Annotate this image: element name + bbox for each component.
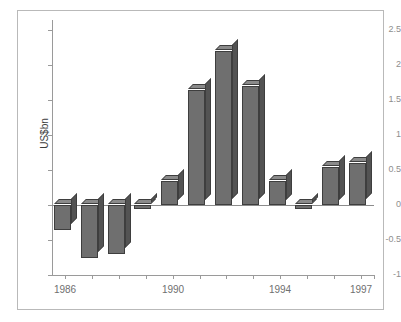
bar-side-face <box>259 74 265 199</box>
bar <box>188 84 205 200</box>
bar-front-face <box>349 163 366 205</box>
bar-front-face <box>134 205 151 209</box>
bar-side-face <box>232 39 238 199</box>
bar-front-face <box>295 205 312 209</box>
bar-front-face <box>161 181 178 206</box>
bar-front-face <box>81 205 98 258</box>
bar-side-face <box>98 193 104 252</box>
bar <box>215 45 232 199</box>
bar-side-face <box>71 193 77 224</box>
bar <box>161 175 178 200</box>
bar-side-face <box>366 151 372 199</box>
bar <box>134 199 151 203</box>
bar-side-face <box>205 78 211 200</box>
bar <box>322 161 339 200</box>
bar <box>295 199 312 203</box>
bar-front-face <box>188 90 205 206</box>
bar-side-face <box>312 193 318 203</box>
bar-front-face <box>54 205 71 230</box>
bar <box>349 157 366 199</box>
bar <box>81 199 98 252</box>
bar <box>108 199 125 248</box>
bar-side-face <box>178 169 184 200</box>
bar-side-face <box>339 155 345 200</box>
bar-front-face <box>322 167 339 206</box>
bar-front-face <box>108 205 125 254</box>
bar <box>269 175 286 200</box>
bar <box>242 80 259 199</box>
bar <box>54 199 71 224</box>
bar-front-face <box>269 181 286 206</box>
bar-front-face <box>215 51 232 205</box>
bars-container <box>0 0 401 322</box>
bar-side-face <box>286 169 292 200</box>
bar-side-face <box>151 193 157 203</box>
bar-side-face <box>125 193 131 248</box>
bar-chart: US$bn 2.521.510.50-0.5-1 198619901994199… <box>0 0 401 322</box>
bar-front-face <box>242 86 259 205</box>
